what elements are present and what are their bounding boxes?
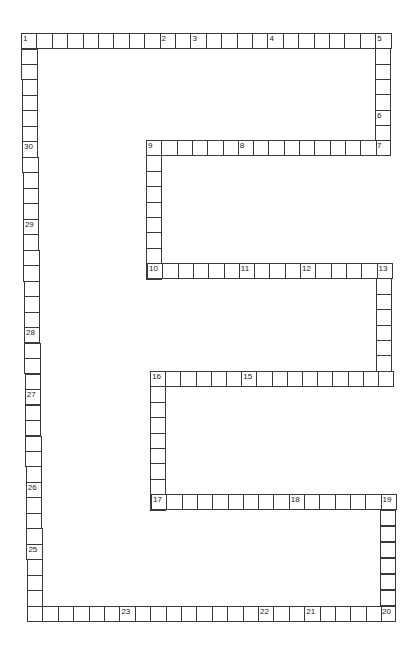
crossword-cell[interactable] — [335, 606, 351, 622]
crossword-cell[interactable] — [22, 79, 38, 95]
crossword-cell[interactable] — [273, 606, 289, 622]
crossword-cell[interactable] — [380, 510, 396, 526]
crossword-cell[interactable] — [361, 263, 377, 279]
crossword-cell[interactable] — [27, 575, 43, 591]
crossword-cell[interactable] — [193, 263, 209, 279]
crossword-cell[interactable] — [375, 64, 391, 80]
crossword-cell[interactable] — [192, 140, 208, 156]
crossword-cell[interactable] — [22, 95, 38, 111]
crossword-cell[interactable] — [378, 371, 394, 387]
crossword-cell[interactable] — [150, 479, 166, 495]
crossword-cell[interactable] — [268, 140, 284, 156]
crossword-cell[interactable] — [146, 202, 162, 218]
crossword-cell[interactable]: 27 — [25, 389, 41, 405]
crossword-cell[interactable] — [26, 466, 42, 482]
crossword-cell[interactable] — [376, 325, 392, 341]
crossword-cell[interactable] — [162, 263, 178, 279]
crossword-cell[interactable] — [24, 358, 40, 374]
crossword-cell[interactable] — [89, 606, 105, 622]
crossword-cell[interactable] — [58, 606, 74, 622]
crossword-cell[interactable] — [269, 263, 285, 279]
crossword-cell[interactable] — [146, 232, 162, 248]
crossword-cell[interactable] — [150, 386, 166, 402]
crossword-cell[interactable] — [24, 312, 40, 328]
crossword-cell[interactable] — [178, 263, 194, 279]
crossword-cell[interactable] — [26, 528, 42, 544]
crossword-cell[interactable] — [146, 155, 162, 171]
crossword-cell[interactable] — [25, 451, 41, 467]
crossword-cell[interactable] — [150, 417, 166, 433]
crossword-cell[interactable] — [181, 606, 197, 622]
crossword-cell[interactable] — [329, 33, 345, 49]
crossword-cell[interactable] — [360, 140, 376, 156]
crossword-cell[interactable] — [228, 494, 244, 510]
crossword-cell[interactable] — [197, 494, 213, 510]
crossword-cell[interactable]: 23 — [119, 606, 135, 622]
crossword-cell[interactable] — [150, 402, 166, 418]
crossword-cell[interactable] — [376, 309, 392, 325]
crossword-cell[interactable] — [360, 33, 376, 49]
crossword-cell[interactable] — [299, 140, 315, 156]
crossword-cell[interactable] — [302, 371, 318, 387]
crossword-cell[interactable]: 25 — [26, 544, 42, 560]
crossword-cell[interactable] — [180, 371, 196, 387]
crossword-cell[interactable] — [344, 33, 360, 49]
crossword-cell[interactable] — [380, 574, 396, 590]
crossword-cell[interactable] — [253, 140, 269, 156]
crossword-cell[interactable] — [223, 140, 239, 156]
crossword-cell[interactable]: 20 — [380, 606, 396, 622]
crossword-cell[interactable] — [375, 79, 391, 95]
crossword-cell[interactable] — [224, 263, 240, 279]
crossword-cell[interactable] — [165, 371, 181, 387]
crossword-cell[interactable] — [211, 371, 227, 387]
crossword-cell[interactable] — [129, 33, 145, 49]
crossword-cell[interactable] — [350, 494, 366, 510]
crossword-cell[interactable] — [331, 263, 347, 279]
crossword-cell[interactable] — [146, 171, 162, 187]
crossword-cell[interactable] — [380, 558, 396, 574]
crossword-cell[interactable]: 18 — [289, 494, 305, 510]
crossword-cell[interactable] — [161, 140, 177, 156]
crossword-cell[interactable] — [182, 494, 198, 510]
crossword-cell[interactable]: 5 — [375, 33, 391, 49]
crossword-cell[interactable]: 1 — [21, 33, 37, 49]
crossword-cell[interactable]: 30 — [22, 141, 38, 157]
crossword-cell[interactable]: 15 — [241, 371, 257, 387]
crossword-cell[interactable] — [146, 248, 162, 264]
crossword-cell[interactable] — [237, 33, 253, 49]
crossword-cell[interactable] — [314, 140, 330, 156]
crossword-cell[interactable] — [27, 590, 43, 606]
crossword-cell[interactable] — [23, 188, 39, 204]
crossword-cell[interactable]: 2 — [160, 33, 176, 49]
crossword-cell[interactable]: 26 — [26, 482, 42, 498]
crossword-cell[interactable] — [284, 140, 300, 156]
crossword-cell[interactable] — [25, 374, 41, 390]
crossword-cell[interactable]: 13 — [377, 263, 393, 279]
crossword-cell[interactable] — [23, 172, 39, 188]
crossword-cell[interactable]: 22 — [258, 606, 274, 622]
crossword-cell[interactable] — [380, 542, 396, 558]
crossword-cell[interactable] — [376, 340, 392, 356]
crossword-cell[interactable] — [83, 33, 99, 49]
crossword-cell[interactable] — [166, 494, 182, 510]
crossword-cell[interactable] — [22, 110, 38, 126]
crossword-cell[interactable] — [25, 420, 41, 436]
crossword-cell[interactable] — [375, 48, 391, 64]
crossword-cell[interactable] — [227, 606, 243, 622]
crossword-cell[interactable] — [380, 526, 396, 542]
crossword-cell[interactable] — [21, 64, 37, 80]
crossword-cell[interactable] — [25, 436, 41, 452]
crossword-cell[interactable] — [104, 606, 120, 622]
crossword-cell[interactable] — [52, 33, 68, 49]
crossword-cell[interactable]: 3 — [190, 33, 206, 49]
crossword-cell[interactable]: 6 — [375, 110, 391, 126]
crossword-cell[interactable]: 4 — [267, 33, 283, 49]
crossword-cell[interactable] — [221, 33, 237, 49]
crossword-cell[interactable] — [348, 371, 364, 387]
crossword-cell[interactable] — [298, 33, 314, 49]
crossword-cell[interactable]: 16 — [150, 371, 166, 387]
crossword-cell[interactable] — [376, 355, 392, 371]
crossword-cell[interactable] — [150, 433, 166, 449]
crossword-cell[interactable] — [24, 343, 40, 359]
crossword-cell[interactable]: 21 — [304, 606, 320, 622]
